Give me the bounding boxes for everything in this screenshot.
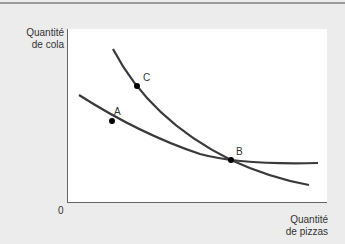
y-axis-label: Quantité de cola (8, 27, 64, 51)
point-label-c: C (143, 72, 150, 83)
y-axis-label-line2: de cola (8, 39, 64, 51)
y-axis-label-line1: Quantité (8, 27, 64, 39)
x-axis-label-line1: Quantité (286, 214, 328, 226)
x-axis-label: Quantité de pizzas (286, 214, 328, 238)
plot-area (67, 29, 327, 202)
point-label-b: B (236, 146, 243, 157)
point-label-a: A (114, 106, 121, 117)
point-b (228, 157, 234, 163)
x-axis-label-line2: de pizzas (286, 226, 328, 238)
point-c (134, 83, 140, 89)
point-a (109, 118, 115, 124)
origin-label: 0 (58, 205, 64, 217)
